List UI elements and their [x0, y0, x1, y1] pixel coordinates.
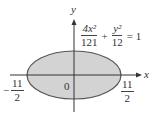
x-axis-arrow-icon [136, 73, 142, 78]
x-axis-label: x [144, 69, 149, 80]
diagram-canvas [0, 0, 158, 118]
equation-term2: y² 12 [112, 23, 123, 48]
left-intercept-label: 11 2 [11, 78, 24, 103]
y-axis-label: y [71, 4, 76, 15]
equation-term1: 4x² 121 [81, 23, 98, 48]
y-axis-arrow-icon [72, 19, 77, 25]
plus-sign: + [102, 30, 108, 42]
right-intercept-label: 11 2 [121, 79, 134, 104]
ellipse-equation: 4x² 121 + y² 12 = 1 [81, 23, 145, 48]
equals-one: = 1 [127, 30, 141, 42]
left-intercept-sign: − [3, 85, 9, 96]
origin-label: 0 [64, 81, 70, 92]
